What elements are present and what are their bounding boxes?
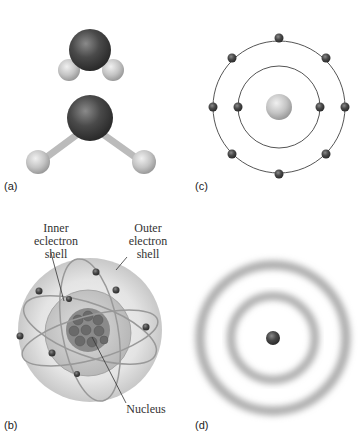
outer-shell-annotation: Outer electron shell xyxy=(120,222,176,261)
electron-cloud-model xyxy=(200,265,346,411)
3d-atom-model xyxy=(15,253,164,406)
panel-label-d: (d) xyxy=(195,419,208,431)
nucleus-annotation: Nucleus xyxy=(116,403,176,416)
panel-label-c: (c) xyxy=(195,180,208,192)
water-space-filling-model xyxy=(58,29,124,81)
outer-shell-line3: shell xyxy=(120,248,176,261)
water-ball-and-stick-model xyxy=(26,95,156,174)
inner-shell-line3: shell xyxy=(28,248,84,261)
bohr-model xyxy=(209,34,350,179)
inner-shell-annotation: Inner eclectron shell xyxy=(28,222,84,261)
panel-label-a: (a) xyxy=(4,180,17,192)
panel-label-b: (b) xyxy=(4,419,17,431)
